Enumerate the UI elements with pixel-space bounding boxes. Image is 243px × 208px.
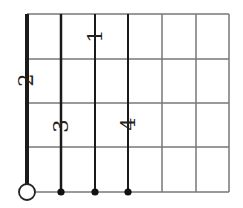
dot-icon (124, 188, 131, 195)
dot-icon (91, 188, 98, 195)
open-circle-icon (19, 184, 35, 200)
fingering-diagram: 1234 (0, 0, 243, 208)
finger-label-1: 1 (83, 29, 107, 42)
finger-label-3: 3 (49, 119, 73, 132)
dot-icon (57, 188, 64, 195)
finger-label-4: 4 (116, 117, 140, 130)
finger-labels: 1234 (14, 29, 140, 132)
finger-label-2: 2 (14, 73, 38, 86)
